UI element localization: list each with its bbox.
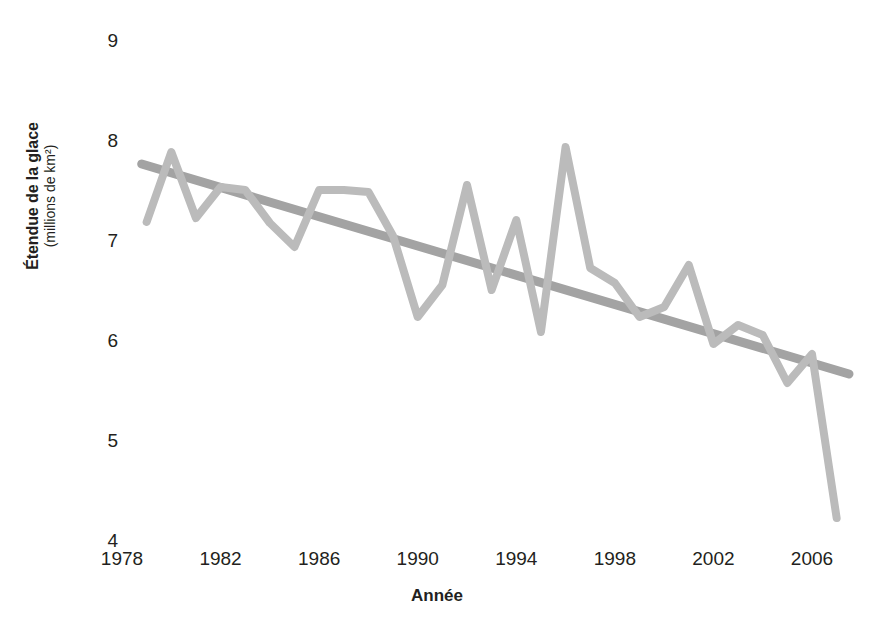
x-axis-title: Année [0,586,874,606]
x-tick-label: 1978 [101,548,143,570]
x-axis-tick-labels: 19781982198619901994199820022006 [0,548,874,574]
plot-area [0,0,874,629]
x-tick-label: 1998 [594,548,636,570]
x-tick-label: 2006 [791,548,833,570]
ice-extent-line [147,147,837,518]
x-tick-label: 1994 [495,548,537,570]
series-group [142,147,849,518]
x-tick-label: 1986 [298,548,340,570]
x-tick-label: 1982 [199,548,241,570]
x-tick-label: 1990 [397,548,439,570]
x-tick-label: 2002 [692,548,734,570]
arctic-sea-ice-line-chart: Étendue de la glace (millions de km²) 45… [0,0,874,629]
